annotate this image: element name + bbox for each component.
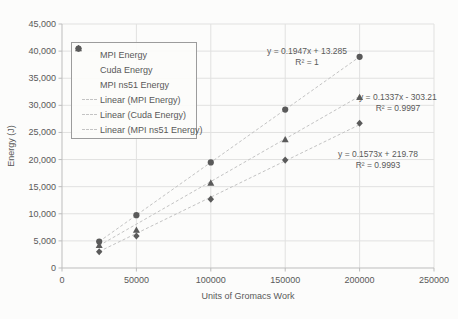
y-tick-label: 5,000 <box>33 236 56 246</box>
y-tick-label: 35,000 <box>28 73 56 83</box>
data-point-cuda-energy <box>282 136 289 142</box>
legend-label: Cuda Energy <box>100 65 153 75</box>
legend-label: MPI Energy <box>100 50 147 60</box>
data-point-mpi-energy <box>133 232 139 239</box>
x-axis-title: Units of Gromacs Work <box>202 291 295 301</box>
x-tick-label: 250000 <box>419 275 449 285</box>
y-tick-label: 40,000 <box>28 46 56 56</box>
data-point-mpi-energy <box>96 248 102 255</box>
y-tick-label: 25,000 <box>28 127 56 137</box>
legend-label: Linear (MPI Energy) <box>100 95 181 105</box>
data-point-mpi-ns51-energy <box>208 159 214 165</box>
legend-label: Linear (MPI ns51 Energy) <box>100 125 203 135</box>
dashed-line-icon <box>82 129 97 130</box>
legend-item-linear-mpi-ns51-energy-: Linear (MPI ns51 Energy) <box>72 122 196 137</box>
trend-r2-cuda-energy: R² = 0.9993 <box>356 160 401 170</box>
annotations: y = 0.1337x - 303.21R² = 0.9997y = 0.157… <box>267 46 437 170</box>
x-tick-label: 150000 <box>270 275 300 285</box>
dashed-line-icon <box>82 114 97 115</box>
data-point-cuda-energy <box>133 227 140 233</box>
trend-equation-mpi-ns51-energy: y = 0.1947x + 13.285 <box>267 46 347 56</box>
circle-marker-icon <box>82 79 95 90</box>
y-tick-label: 20,000 <box>28 155 56 165</box>
trend-r2-mpi-ns51-energy: R² = 1 <box>295 57 319 67</box>
data-point-mpi-ns51-energy <box>133 212 139 218</box>
x-tick-label: 0 <box>59 275 64 285</box>
data-point-mpi-ns51-energy <box>96 238 102 244</box>
dashed-line-icon <box>82 99 97 100</box>
data-point-mpi-ns51-energy <box>282 106 288 112</box>
legend-label: MPI ns51 Energy <box>100 80 169 90</box>
legend: MPI EnergyCuda EnergyMPI ns51 EnergyLine… <box>71 42 197 139</box>
data-point-mpi-energy <box>282 156 288 163</box>
y-tick-label: 30,000 <box>28 100 56 110</box>
circle-marker-icon <box>75 45 81 51</box>
legend-label: Linear (Cuda Energy) <box>100 110 186 120</box>
y-tick-label: 45,000 <box>28 19 56 29</box>
y-tick-label: 10,000 <box>28 209 56 219</box>
data-point-mpi-ns51-energy <box>357 54 363 60</box>
y-tick-label: 0 <box>51 263 56 273</box>
x-tick-label: 50000 <box>124 275 149 285</box>
trend-r2-mpi-energy: R² = 0.9997 <box>376 103 421 113</box>
x-tick-label: 100000 <box>196 275 226 285</box>
trend-equation-cuda-energy: y = 0.1573x + 219.78 <box>338 149 418 159</box>
legend-item-mpi-energy: MPI Energy <box>72 47 196 62</box>
energy-vs-gromacs-work-chart: 05000010000015000020000025000005,00010,0… <box>0 0 458 319</box>
legend-item-cuda-energy: Cuda Energy <box>72 62 196 77</box>
data-point-mpi-energy <box>208 196 214 203</box>
triangle-marker-icon <box>82 64 95 75</box>
y-axis-title: Energy (J) <box>6 125 16 167</box>
legend-item-linear-cuda-energy-: Linear (Cuda Energy) <box>72 107 196 122</box>
trend-equation-mpi-energy: y = 0.1337x - 303.21 <box>359 92 437 102</box>
legend-item-mpi-ns51-energy: MPI ns51 Energy <box>72 77 196 92</box>
y-tick-label: 15,000 <box>28 182 56 192</box>
x-tick-label: 200000 <box>345 275 375 285</box>
legend-item-linear-mpi-energy-: Linear (MPI Energy) <box>72 92 196 107</box>
plot-area: 05000010000015000020000025000005,00010,0… <box>0 0 458 319</box>
